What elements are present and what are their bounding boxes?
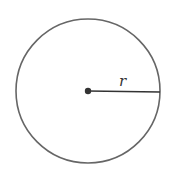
radius-line (88, 91, 160, 92)
circle-diagram: r (0, 0, 173, 171)
center-point (85, 88, 91, 94)
radius-label: r (119, 72, 127, 90)
